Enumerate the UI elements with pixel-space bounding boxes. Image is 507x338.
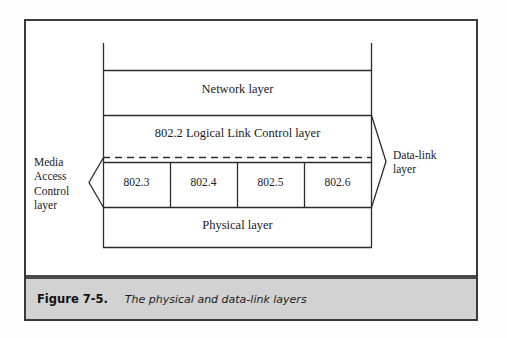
network-layer-label: Network layer: [103, 82, 372, 97]
physical-layer-label: Physical layer: [103, 218, 372, 233]
figure-number: Figure 7-5.: [37, 292, 108, 306]
mac-sublayer-802-6: 802.6: [304, 176, 371, 188]
llc-layer-label: 802.2 Logical Link Control layer: [103, 126, 372, 141]
mac-sublayer-802-5: 802.5: [237, 176, 304, 188]
figure-caption-bar: Figure 7-5. The physical and data-link l…: [26, 277, 476, 319]
figure-root: Network layer 802.2 Logical Link Control…: [0, 0, 507, 338]
media-access-control-layer-label: Media Access Control layer: [34, 155, 69, 212]
mac-sublayer-802-3: 802.3: [103, 176, 170, 188]
data-link-layer-label: Data-link layer: [393, 148, 436, 177]
mac-sublayer-802-4: 802.4: [170, 176, 237, 188]
figure-caption-text: The physical and data-link layers: [125, 293, 307, 306]
